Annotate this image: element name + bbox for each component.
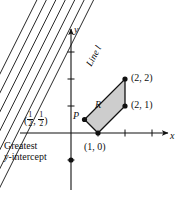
region-label: R [95, 100, 101, 111]
dot-greatest-y-intercept [68, 157, 73, 162]
greatest-text-line1: Greatest [4, 140, 47, 151]
math-figure-canvas: y x Line l R P (12, 12) (1, 0) (2, 1) (2… [0, 0, 185, 200]
greatest-y-intercept-annotation: Greatest y-intercept [4, 140, 47, 162]
vertex-label-1-0: (1, 0) [84, 142, 106, 153]
dot-2-1 [122, 103, 127, 108]
parallel-line-family [0, 0, 185, 200]
parallel-line-2 [0, 0, 185, 200]
parallel-line-3 [0, 0, 185, 199]
feasible-region [85, 79, 126, 133]
greatest-text-line2: y-intercept [4, 151, 47, 162]
vertex-label-2-1: (2, 1) [131, 100, 153, 111]
region-polygon [85, 79, 126, 133]
vertex-label-2-2: (2, 2) [131, 73, 153, 84]
parallel-line-1 [0, 0, 185, 200]
dot-point-p [82, 117, 87, 122]
dot-1-0 [95, 130, 100, 135]
dot-2-2 [122, 76, 127, 81]
paren-close: ) [44, 115, 47, 126]
figure-svg [0, 0, 185, 200]
point-p-label: P [73, 111, 79, 122]
point-p-coordinates: (12, 12) [24, 111, 48, 128]
intercept-text: -intercept [8, 151, 46, 162]
parallel-line-5 [0, 0, 185, 162]
y-axis-label: y [74, 25, 78, 36]
x-axis-label: x [170, 131, 174, 142]
